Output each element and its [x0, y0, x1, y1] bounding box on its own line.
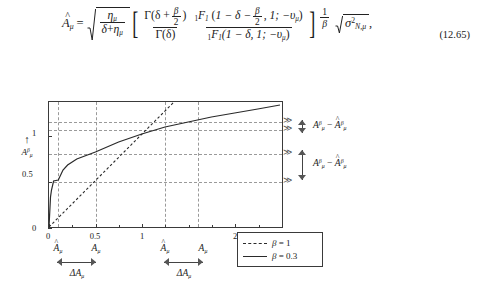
arrow-head-right [91, 258, 96, 266]
x-tick-label-1: 1 [140, 231, 144, 241]
arrow-head-right [198, 258, 203, 266]
gamma-ratio: Γ(δ +β2) Γ(δ) [140, 6, 190, 41]
delta-label-1: ΔAμ [70, 268, 84, 278]
equation-expression: ^Aμ = ημ δ+ημ [ Γ(δ +β2) Γ(δ) [62, 6, 372, 41]
difference-arrow-pair-1 [298, 150, 307, 180]
plot-area: β = 1 β = 0.3 [48, 101, 283, 228]
outer-radical: ημ δ+ημ [87, 7, 130, 41]
legend: β = 1 β = 0.3 [237, 232, 323, 267]
arrow-head-down [298, 128, 306, 133]
x-tick-25 [282, 225, 283, 228]
delta-arrow-2 [164, 258, 203, 267]
bottom-label-ahat-2: ^Aμ [161, 243, 170, 253]
legend-solid-swatch [243, 256, 267, 257]
equation-lhs: ^Aμ [62, 16, 74, 31]
eta-numerator: ημ [106, 9, 119, 22]
legend-dashed-swatch [243, 243, 267, 244]
difference-label-pair-2: Aβμ − ^Aβμ [313, 120, 347, 130]
bottom-label-ahat-1: ^Aμ [54, 243, 63, 253]
x-tick-label-05: 0.5 [90, 231, 101, 241]
y-tick-label-0: 0 [32, 223, 36, 233]
y-axis-title-text: Aβμ [21, 147, 32, 157]
hat-accent: ^ [65, 10, 70, 21]
bottom-label-a-1: Aμ [92, 243, 101, 253]
hypergeometric-denominator: 1F1(1 − δ, 1; −υμ) [206, 27, 292, 41]
trailing-comma: , [369, 16, 372, 31]
equation-number: (12.65) [439, 29, 470, 40]
x-tick-label-0: 0 [46, 231, 50, 241]
legend-beta-1-label: β = 1 [272, 238, 291, 248]
legend-beta-03: β = 0.3 [243, 251, 317, 261]
bracket-open: [ [132, 15, 138, 32]
figure: ↑ Aβμ Aμ → 0 0.5 1 0 0.5 1 2 [0, 58, 483, 295]
y-axis-arrow: ↑ [10, 133, 44, 147]
hypergeometric-ratio: 1F1 (1 − δ −β2, 1; −υμ) 1F1(1 − δ, 1; −υ… [190, 6, 306, 41]
lhs-subscript: μ [70, 22, 74, 31]
gamma-numerator: Γ(δ +β2) [142, 6, 188, 27]
arrow-head-left [164, 258, 169, 266]
arrow-head-up [298, 150, 306, 155]
bottom-label-a-2: Aμ [199, 243, 208, 253]
guide-pointer-ahatbeta-2: ≫ [283, 123, 292, 133]
delta-label-2: ΔAμ [177, 268, 191, 278]
equals-sign: = [74, 16, 87, 31]
radical-sign [87, 7, 96, 41]
arrow-head-down [298, 175, 306, 180]
radicand-outer: ημ δ+ημ [96, 7, 130, 41]
equation-block: ^Aμ = ημ δ+ημ [ Γ(δ +β2) Γ(δ) [0, 2, 483, 58]
hypergeometric-numerator: 1F1 (1 − δ −β2, 1; −υμ) [192, 6, 304, 27]
guide-pointer-ahatbeta-1: ≫ [283, 175, 292, 185]
guide-pointer-abeta-1: ≫ [283, 147, 292, 157]
legend-beta-03-label: β = 0.3 [272, 251, 297, 261]
y-tick-0 [48, 228, 52, 229]
delta-plus-eta-denominator: δ+ημ [100, 22, 125, 36]
legend-beta-1: β = 1 [243, 238, 317, 248]
difference-arrow-pair-2 [298, 120, 307, 133]
arrow-head-left [57, 258, 62, 266]
y-tick-label-1: 1 [32, 128, 36, 138]
y-tick-label-05: 0.5 [22, 169, 33, 179]
sigma-radical: σ2N,μ [335, 14, 369, 34]
delta-arrow-1 [57, 258, 96, 267]
y-axis-title: ↑ Aβμ [10, 133, 44, 158]
bracket-exponent: 1 β [318, 6, 331, 29]
series-beta-03-curve [49, 105, 280, 227]
eta-over-delta-plus-eta: ημ δ+ημ [98, 9, 127, 36]
bracket-close: ] [309, 15, 315, 32]
difference-label-pair-1: Aβμ − ^Aβμ [313, 158, 347, 168]
arrow-head-up [298, 120, 306, 125]
sigma-radicand: σ2N,μ [343, 14, 369, 34]
radical-sign-sigma [335, 14, 343, 34]
gamma-denominator: Γ(δ) [153, 27, 177, 41]
